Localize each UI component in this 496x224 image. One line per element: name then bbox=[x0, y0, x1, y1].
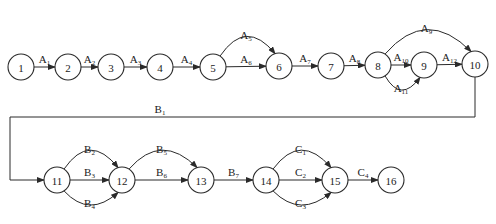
edge-label: C4 bbox=[358, 166, 369, 180]
node-6: 6 bbox=[266, 53, 292, 79]
edge-label: A3 bbox=[130, 53, 142, 67]
edge-label: A10 bbox=[394, 51, 409, 65]
node-label: 12 bbox=[117, 175, 128, 187]
node-8: 8 bbox=[365, 52, 391, 78]
node-label: 1 bbox=[18, 62, 24, 74]
node-label: 7 bbox=[328, 61, 334, 73]
edge-label: A9 bbox=[421, 22, 433, 36]
edge-label: A4 bbox=[181, 53, 193, 67]
node-label: 6 bbox=[276, 61, 282, 73]
edge-label: C2 bbox=[295, 166, 306, 180]
node-5: 5 bbox=[200, 54, 226, 80]
node-label: 5 bbox=[210, 62, 216, 74]
node-10: 10 bbox=[462, 51, 488, 77]
edge-label: C1 bbox=[295, 143, 306, 157]
node-label: 3 bbox=[108, 62, 114, 74]
edge-label: B4 bbox=[84, 197, 95, 211]
node-1: 1 bbox=[8, 54, 34, 80]
edge-arrow bbox=[226, 66, 266, 67]
node-label: 2 bbox=[65, 62, 71, 74]
edge-label: A11 bbox=[394, 82, 409, 96]
node-12: 12 bbox=[109, 167, 135, 193]
edge-label: A12 bbox=[442, 51, 457, 65]
node-4: 4 bbox=[147, 54, 173, 80]
node-label: 8 bbox=[375, 60, 381, 72]
edge-label: C3 bbox=[295, 197, 306, 211]
edge-label: B7 bbox=[228, 166, 239, 180]
edge-label: B6 bbox=[156, 166, 167, 180]
edge-label: B2 bbox=[84, 143, 95, 157]
node-label: 10 bbox=[470, 59, 482, 71]
edge-label: A2 bbox=[84, 53, 96, 67]
node-3: 3 bbox=[98, 54, 124, 80]
edge-label: B5 bbox=[156, 143, 167, 157]
edge-label: A8 bbox=[349, 52, 361, 66]
node-14: 14 bbox=[253, 167, 279, 193]
node-label: 15 bbox=[330, 175, 342, 187]
node-label: 4 bbox=[157, 62, 163, 74]
edge-label: B3 bbox=[84, 166, 95, 180]
edge-label: B1 bbox=[155, 103, 166, 117]
node-15: 15 bbox=[322, 167, 348, 193]
edge-label: A5 bbox=[240, 29, 252, 43]
node-16: 16 bbox=[378, 167, 404, 193]
node-11: 11 bbox=[44, 167, 70, 193]
node-label: 16 bbox=[386, 175, 398, 187]
node-9: 9 bbox=[411, 52, 437, 78]
node-13: 13 bbox=[188, 167, 214, 193]
edge-label: A6 bbox=[240, 53, 252, 67]
node-label: 14 bbox=[261, 175, 273, 187]
node-2: 2 bbox=[55, 54, 81, 80]
node-label: 9 bbox=[421, 60, 427, 72]
edge-label: A7 bbox=[299, 52, 311, 66]
network-diagram: A1A2A3A4A5A6A7A8A9A10A11A12B1B2B3B4B5B6B… bbox=[0, 0, 496, 224]
node-label: 11 bbox=[52, 175, 63, 187]
edge-label: A1 bbox=[39, 53, 51, 67]
node-label: 13 bbox=[196, 175, 208, 187]
node-7: 7 bbox=[318, 53, 344, 79]
